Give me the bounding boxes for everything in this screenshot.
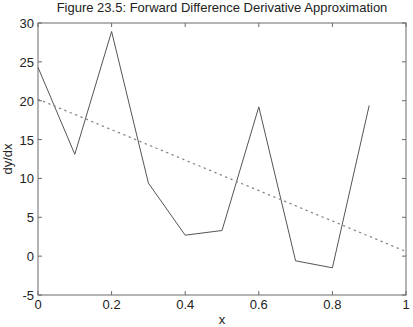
y-tick-label: 20 (20, 94, 34, 109)
x-tick-label: 0.6 (250, 297, 268, 312)
plot-area (38, 23, 406, 295)
exact-derivative-line (38, 99, 406, 251)
y-axis: -5051015202530 (20, 16, 406, 303)
chart-title: Figure 23.5: Forward Difference Derivati… (57, 0, 388, 15)
x-tick-label: 0.8 (323, 297, 341, 312)
x-axis: 00.20.40.60.81 (34, 23, 409, 312)
x-tick-label: 0.4 (176, 297, 194, 312)
chart: Figure 23.5: Forward Difference Derivati… (0, 0, 413, 327)
y-tick-label: 0 (27, 249, 34, 264)
y-tick-label: 15 (20, 133, 34, 148)
y-tick-label: 5 (27, 210, 34, 225)
x-axis-label: x (219, 312, 226, 327)
axes-frame (38, 23, 406, 295)
y-tick-label: -5 (22, 288, 34, 303)
x-tick-label: 1 (402, 297, 409, 312)
y-axis-label: dy/dx (0, 143, 15, 175)
y-tick-label: 25 (20, 55, 34, 70)
y-tick-label: 30 (20, 16, 34, 31)
x-tick-label: 0.2 (103, 297, 121, 312)
approximation-line (38, 32, 369, 268)
x-tick-label: 0 (34, 297, 41, 312)
y-tick-label: 10 (20, 171, 34, 186)
